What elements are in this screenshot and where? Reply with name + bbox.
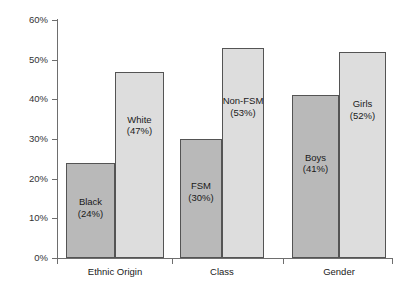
plot-area: Black(24%)White(47%)FSM(30%)Non-FSM(53%)… (57, 20, 393, 258)
bar-percent-value: (24%) (78, 208, 103, 220)
bar-series-name: Girls (350, 98, 375, 110)
bar-chart: 0%10%20%30%40%50%60% Black(24%)White(47%… (0, 0, 413, 295)
bar-series-name: Black (78, 196, 103, 208)
bar-non-fsm: Non-FSM(53%) (222, 48, 264, 258)
bar-percent-value: (41%) (303, 163, 328, 175)
y-axis-tick-label-text: 20% (4, 174, 48, 184)
y-axis-tick-label: 50% (0, 55, 48, 65)
y-axis-tick-label: 30% (0, 134, 48, 144)
x-axis-line (57, 258, 393, 259)
category-label-class: Class (210, 266, 234, 277)
y-axis-tick-label: 40% (0, 94, 48, 104)
bar-series-name: Non-FSM (223, 95, 264, 107)
bar-value-label: FSM(30%) (188, 180, 213, 203)
bar-value-label: Boys(41%) (303, 152, 328, 175)
y-axis-tick-label-text: 0% (4, 253, 48, 263)
bar-series-name: White (127, 114, 152, 126)
y-axis-tick-label: 10% (0, 213, 48, 223)
y-axis-tick-label: 0% (0, 253, 48, 263)
bar-percent-value: (47%) (127, 125, 152, 137)
y-axis-tick-label-text: 10% (4, 213, 48, 223)
y-axis-tick-label-text: 60% (4, 15, 48, 25)
bar-boys: Boys(41%) (292, 95, 339, 258)
x-axis-tick (57, 259, 58, 264)
bar-value-label: White(47%) (127, 114, 152, 137)
category-label-ethnic-origin: Ethnic Origin (88, 266, 142, 277)
bar-series-name: Boys (303, 152, 328, 164)
y-axis-tick-label-text: 30% (4, 134, 48, 144)
bar-series-name: FSM (188, 180, 213, 192)
bar-fsm: FSM(30%) (180, 139, 222, 258)
y-axis-tick-label: 60% (0, 15, 48, 25)
bar-percent-value: (52%) (350, 110, 375, 122)
bar-girls: Girls(52%) (339, 52, 386, 258)
bar-value-label: Non-FSM(53%) (223, 95, 264, 118)
bar-value-label: Black(24%) (78, 196, 103, 219)
y-axis-tick-label-text: 40% (4, 94, 48, 104)
x-axis-tick (392, 259, 393, 264)
category-label-gender: Gender (323, 266, 355, 277)
x-axis-tick (172, 259, 173, 264)
bar-black: Black(24%) (66, 163, 115, 258)
bar-percent-value: (53%) (223, 107, 264, 119)
y-axis-tick-label-text: 50% (4, 55, 48, 65)
bar-value-label: Girls(52%) (350, 98, 375, 121)
x-axis-tick (283, 259, 284, 264)
y-axis-tick-label: 20% (0, 174, 48, 184)
bar-percent-value: (30%) (188, 192, 213, 204)
bar-white: White(47%) (115, 72, 164, 258)
